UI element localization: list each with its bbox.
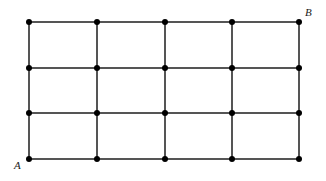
vertical-edge-group [29,22,299,159]
grid-vertex-dot [162,19,168,25]
grid-vertex-dot [229,110,235,116]
grid-vertex-dot [94,65,100,71]
grid-vertex-dot [296,156,302,162]
grid-vertex-dot [26,65,32,71]
grid-vertex-dot [94,110,100,116]
vertex-label-b: B [305,7,312,18]
grid-vertex-dot [26,110,32,116]
grid-vertex-dot [94,19,100,25]
grid-vertex-dot [162,65,168,71]
grid-vertex-dot [229,19,235,25]
grid-vertex-dot [162,110,168,116]
grid-vertex-dot [229,156,235,162]
lattice-graph-canvas [0,0,326,181]
grid-vertex-dot [296,110,302,116]
vertex-group [26,19,302,162]
grid-vertex-dot [296,65,302,71]
grid-vertex-dot [229,65,235,71]
grid-vertex-dot [26,156,32,162]
horizontal-edge-group [29,22,299,159]
grid-vertex-dot [26,19,32,25]
grid-vertex-dot [296,19,302,25]
grid-vertex-dot [94,156,100,162]
lattice-diagram-figure: A B [0,0,326,181]
grid-vertex-dot [162,156,168,162]
vertex-label-a: A [14,160,21,171]
